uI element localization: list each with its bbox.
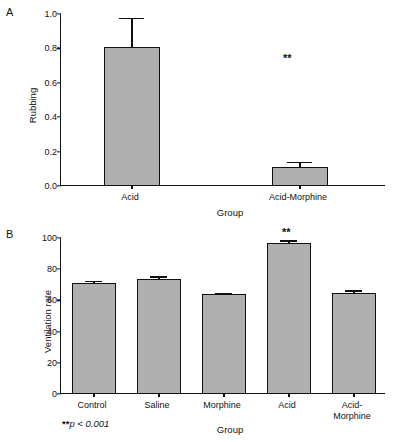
plot-area-a: 0.0 0.2 0.4 0.6 0.8 1.0 ** xyxy=(60,14,385,186)
ytick-mark-a-4 xyxy=(57,48,61,49)
xtick-mark-b-1 xyxy=(158,393,159,397)
errorcap-b-control xyxy=(85,281,102,282)
bar-b-acid-morphine xyxy=(332,293,376,394)
significance-a: ** xyxy=(283,52,292,64)
xtick-mark-a-1 xyxy=(299,185,300,189)
xtick-mark-a-0 xyxy=(131,185,132,189)
xtick-b-0: Control xyxy=(77,400,106,410)
ytick-mark-b-1 xyxy=(57,362,61,363)
footnote: **p < 0.001 xyxy=(62,418,109,429)
panel-a-label: A xyxy=(6,6,13,18)
errorcap-b-morphine xyxy=(215,293,232,294)
xlabel-a: Group xyxy=(180,207,280,218)
bar-b-control xyxy=(72,283,116,394)
bar-a-acid xyxy=(104,47,160,186)
ytick-mark-a-5 xyxy=(57,13,61,14)
ytick-mark-a-3 xyxy=(57,82,61,83)
plot-area-b: 0 20 40 60 80 100 xyxy=(60,238,385,394)
figure-root: A 0.0 0.2 0.4 0.6 0.8 1.0 xyxy=(0,0,413,442)
errorcap-b-acid xyxy=(280,240,297,241)
xtick-mark-b-4 xyxy=(353,393,354,397)
errorbar-a-acid xyxy=(131,18,132,47)
xtick-a-0: Acid xyxy=(121,192,139,202)
ytick-mark-a-1 xyxy=(57,151,61,152)
errorcap-b-saline xyxy=(150,276,167,277)
errorcap-a-acid xyxy=(119,18,144,19)
xtick-b-4: Acid- Morphine xyxy=(333,400,371,422)
errorcap-b-acid-morphine xyxy=(345,290,362,291)
ytick-mark-a-2 xyxy=(57,117,61,118)
bar-b-saline xyxy=(137,279,181,394)
xlabel-b: Group xyxy=(180,424,280,435)
bar-a-acid-morphine xyxy=(272,167,328,186)
errorcap-a-acid-morphine xyxy=(287,162,312,163)
xtick-b-3: Acid xyxy=(278,400,296,410)
ytick-mark-b-5 xyxy=(57,237,61,238)
bar-b-acid xyxy=(267,243,311,394)
xtick-a-1: Acid-Morphine xyxy=(269,192,327,202)
ytick-mark-b-2 xyxy=(57,331,61,332)
significance-b: ** xyxy=(282,226,291,238)
bar-b-morphine xyxy=(202,294,246,394)
xtick-mark-b-3 xyxy=(288,393,289,397)
ytick-mark-b-3 xyxy=(57,300,61,301)
panel-b-label: B xyxy=(6,228,13,240)
ylabel-b: Ventilation rate xyxy=(42,262,53,382)
ytick-mark-a-0 xyxy=(57,185,61,186)
xtick-b-2: Morphine xyxy=(203,400,241,410)
ytick-mark-b-4 xyxy=(57,269,61,270)
xtick-mark-b-2 xyxy=(223,393,224,397)
footnote-text: p < 0.001 xyxy=(69,418,109,429)
ylabel-a: Rubbing xyxy=(27,70,38,142)
xtick-b-1: Saline xyxy=(144,400,169,410)
ytick-mark-b-0 xyxy=(57,393,61,394)
xtick-mark-b-0 xyxy=(93,393,94,397)
